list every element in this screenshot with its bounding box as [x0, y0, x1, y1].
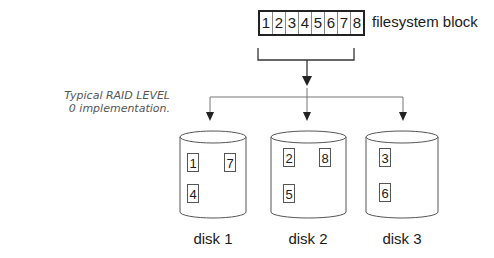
block-cell: 8 — [351, 12, 363, 34]
block-cell: 5 — [312, 12, 325, 34]
block-cell: 7 — [338, 12, 351, 34]
block-cell: 6 — [325, 12, 338, 34]
disk-3-chunk: 6 — [379, 183, 391, 202]
disk-3-chunk: 3 — [379, 148, 391, 167]
block-cell: 4 — [299, 12, 312, 34]
caption-line-2: 0 implementation. — [20, 102, 170, 115]
caption: Typical RAID LEVEL 0 implementation. — [20, 89, 170, 115]
disk-2-chunk: 8 — [319, 148, 331, 167]
disk-3-label: disk 3 — [362, 230, 442, 247]
caption-line-1: Typical RAID LEVEL — [20, 89, 170, 102]
diagram-lines — [0, 0, 494, 258]
disk-1-chunk: 1 — [187, 153, 199, 172]
block-cell: 1 — [260, 12, 273, 34]
disk-1-label: disk 1 — [173, 230, 253, 247]
disk-1-chunk: 4 — [187, 184, 199, 203]
disk-2-cylinder — [271, 131, 346, 218]
disk-3-cylinder — [366, 131, 438, 218]
filesystem-block: 1 2 3 4 5 6 7 8 — [258, 10, 365, 36]
disk-2-label: disk 2 — [268, 230, 348, 247]
block-cell: 2 — [273, 12, 286, 34]
disk-1-chunk: 7 — [224, 153, 236, 172]
arrow-down-icon — [302, 76, 312, 86]
block-cell: 3 — [286, 12, 299, 34]
filesystem-block-label: filesystem block — [372, 13, 478, 30]
disk-2-chunk: 2 — [283, 148, 295, 167]
disk-2-chunk: 5 — [283, 184, 295, 203]
disk-1-cylinder — [180, 131, 246, 218]
